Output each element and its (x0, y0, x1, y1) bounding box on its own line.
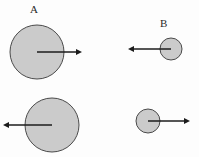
body-a-bottom-group (3, 98, 79, 152)
body-label-b: B (160, 18, 168, 29)
body-b-bottom-velocity-arrowhead (184, 118, 190, 124)
diagram-canvas (0, 0, 199, 157)
body-label-a: A (30, 4, 38, 15)
body-b-top-velocity-arrowhead (128, 46, 134, 52)
body-b-bottom-group (136, 109, 190, 133)
body-a-top-velocity-arrowhead (76, 49, 82, 55)
body-b-top-group (128, 38, 182, 60)
physics-collision-diagram: A B (0, 0, 199, 157)
body-a-top-group (10, 25, 82, 79)
body-a-bottom-velocity-arrowhead (3, 122, 9, 128)
